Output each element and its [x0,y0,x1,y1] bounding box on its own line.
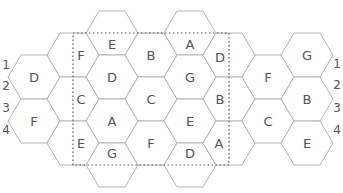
row-number: 3 [333,101,341,115]
hex-letter: G [107,146,117,161]
hex-letter: A [186,37,195,52]
hex-letter: B [147,48,156,63]
hex-letter: F [147,136,154,151]
hex-letter: F [30,114,37,129]
hex-letter: D [107,70,117,85]
hex-letter: E [108,37,116,52]
row-number: 4 [2,123,10,137]
hex-letter: G [302,48,312,63]
hex-letter: D [215,50,225,65]
hex-letter: E [303,136,311,151]
row-number: 1 [333,57,341,71]
hex-letter: E [186,114,194,129]
hex-letter: C [263,114,272,129]
hex-letter: C [76,92,85,107]
row-number: 2 [333,78,341,92]
hex-letter: G [185,70,195,85]
hex-puzzle-diagram: DFFCEEDAGBCFAGEDDBAFCGBE 1234 1234 [0,0,343,193]
hex-grid: DFFCEEDAGBCFAGEDDBAFCGBE 1234 1234 [0,0,343,193]
row-number: 4 [333,123,341,137]
row-number: 1 [2,58,10,72]
hex-letter: F [264,70,271,85]
hex-letter: A [108,114,117,129]
hex-letter: A [215,136,224,151]
hex-letter: B [303,92,312,107]
row-numbers-left: 1234 [2,58,10,137]
hex-letter: F [77,48,84,63]
hex-letter: D [29,70,39,85]
hex-cells [8,11,333,187]
hex-letter: D [185,146,195,161]
hex-letter: E [77,136,85,151]
hex-letter: B [216,92,225,107]
hex-letter: C [146,92,155,107]
row-numbers-right: 1234 [333,57,341,137]
row-number: 2 [2,79,10,93]
row-number: 3 [2,101,10,115]
